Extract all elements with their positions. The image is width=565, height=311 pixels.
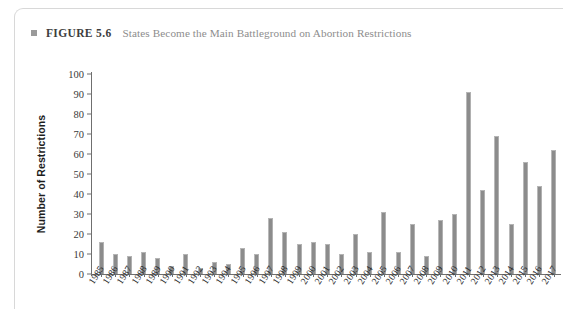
y-axis-tick-mark (87, 234, 91, 235)
figure-card: FIGURE 5.6 States Become the Main Battle… (14, 8, 563, 309)
y-axis-tick-mark (87, 254, 91, 255)
y-axis-tick-mark (87, 214, 91, 215)
bar (523, 162, 528, 274)
y-axis-tick-mark (87, 74, 91, 75)
bar (466, 92, 471, 274)
y-axis-tick-mark (87, 134, 91, 135)
bar (537, 186, 542, 274)
y-axis-tick-mark (87, 174, 91, 175)
y-axis-tick-mark (87, 194, 91, 195)
figure-header: FIGURE 5.6 States Become the Main Battle… (31, 27, 412, 39)
y-axis-tick-mark (87, 114, 91, 115)
figure-title: States Become the Main Battleground on A… (122, 27, 411, 39)
bar (494, 136, 499, 274)
y-axis-tick-mark (87, 94, 91, 95)
plot-area: 0102030405060708090100 (91, 74, 561, 274)
square-bullet-icon (31, 30, 37, 36)
bar (480, 190, 485, 274)
y-axis-title: Number of Restrictions (35, 115, 47, 233)
bar (551, 150, 556, 274)
y-axis-tick-mark (87, 154, 91, 155)
figure-number-label: FIGURE 5.6 (46, 27, 111, 39)
